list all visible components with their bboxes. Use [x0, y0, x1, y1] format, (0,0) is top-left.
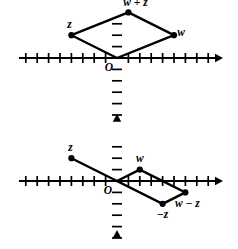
vector-parallelogram [71, 12, 174, 58]
vector-diagram-figure: Ozw + zw Ozww − z−z [0, 0, 238, 249]
label-origin: O [104, 184, 112, 196]
label-w: w [136, 152, 144, 164]
point-z [68, 155, 74, 161]
bottom-chart-vector-subtraction: Ozww − z−z [0, 125, 238, 249]
point-w [137, 167, 143, 173]
axis-ticks [26, 147, 208, 238]
label-z: z [67, 141, 73, 153]
label-w-plus-z: w + z [123, 0, 148, 8]
point-w-minus-z [182, 189, 188, 195]
label-origin: O [105, 61, 113, 73]
axes [19, 54, 223, 122]
x-axis-arrow [215, 54, 223, 62]
point-w-plus-z [125, 9, 131, 15]
label-z: z [66, 18, 72, 30]
point-w [171, 32, 177, 38]
label-w-minus-z: w − z [175, 197, 200, 209]
top-chart-vector-addition: Ozw + zw [0, 0, 238, 125]
label-minus-z: −z [157, 208, 169, 220]
point-minus-z [160, 201, 166, 207]
y-axis-arrow [113, 230, 121, 238]
point-z [68, 32, 74, 38]
label-w: w [177, 26, 185, 38]
x-axis-arrow [215, 177, 223, 185]
